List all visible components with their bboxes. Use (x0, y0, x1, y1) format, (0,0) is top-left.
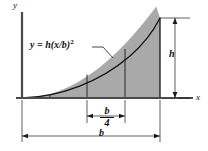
base-arrow-right (154, 134, 160, 139)
segment-fraction-numerator: b (100, 106, 114, 117)
equation-leader-line (92, 47, 113, 58)
segment-fraction-label: b 4 (100, 106, 114, 128)
height-dimension-label: h (169, 49, 175, 59)
curve-equation-label: y = h(x/b)2 (30, 39, 74, 50)
h-arrow-top (173, 18, 178, 24)
segment-fraction-denominator: 4 (100, 118, 114, 129)
curve-equation-exponent: 2 (70, 38, 74, 46)
segment-arrow-left (87, 114, 93, 119)
curve-equation-text: y = h(x/b) (30, 39, 70, 50)
parabolic-spandrel-figure (0, 0, 208, 151)
x-axis-label: x (196, 93, 200, 102)
base-arrow-left (22, 134, 28, 139)
base-dimension-label: b (99, 128, 104, 138)
y-axis-label: y (13, 1, 17, 10)
segment-arrow-right (119, 114, 125, 119)
